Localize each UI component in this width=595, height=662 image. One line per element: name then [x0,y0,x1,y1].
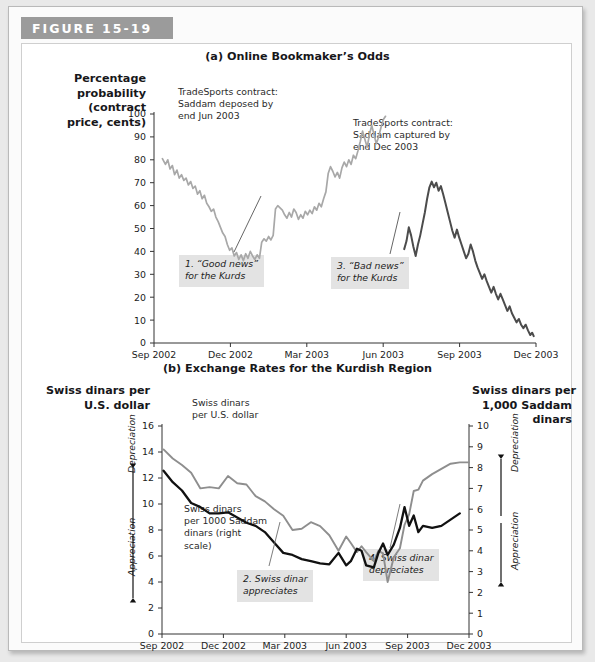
panel-a-y-tick-label: 90 [134,131,146,142]
panel-b-y-tick-label-right: 6 [477,504,483,515]
figure-number-tab: FIGURE 15-19 [21,17,173,39]
panel-b-x-tick-label: Dec 2002 [201,640,246,651]
panel-b-x-tick-label: Sep 2003 [385,640,430,651]
panel-b-x-tick-label: Dec 2003 [447,640,492,651]
panel-a-plot: 0102030405060708090100Sep 2002Dec 2002Ma… [22,44,573,344]
figure-content: (a) Online Bookmaker’s Odds Percentage p… [21,43,572,643]
panel-b-y-tick-label-left: 12 [142,472,154,483]
figure-number-label: FIGURE 15-19 [21,21,152,36]
panel-b-leader-appreciates [269,522,280,566]
panel-b-series-2 [164,471,460,568]
panel-b-y-tick-label-left: 2 [148,602,154,613]
panel-a-y-tick-label: 70 [134,177,146,188]
panel-b-y-tick-label-left: 14 [142,446,154,457]
panel-b-x-tick-label: Sep 2002 [140,640,185,651]
panel-b-y-tick-label-left: 4 [148,576,154,587]
panel-b-y-tick-label-right: 10 [477,420,489,431]
panel-b-y-tick-label-right: 0 [477,628,483,639]
panel-b-y-tick-label-right: 9 [477,441,483,452]
panel-a-y-tick-label: 100 [128,108,146,119]
panel-b-y-tick-label-right: 5 [477,524,483,535]
panel-a-series-1 [162,116,385,260]
panel-b-y-tick-label-left: 10 [142,498,154,509]
panel-a-series-2 [404,182,533,337]
panel-b-y-tick-label-right: 8 [477,462,483,473]
panel-b-y-tick-label-left: 16 [142,420,154,431]
panel-b-left-appreciation-arrow-head [130,598,136,603]
panel-a-leader-bad-news [390,212,400,254]
panel-b-y-tick-label-left: 8 [148,524,154,535]
figure-panel: FIGURE 15-19 (a) Online Bookmaker’s Odds… [8,6,583,651]
panel-b-y-tick-label-right: 4 [477,545,483,556]
panel-a-y-tick-label: 80 [134,154,146,165]
panel-a-leader-good-news [234,196,261,252]
panel-b-y-tick-label-right: 7 [477,483,483,494]
panel-a-y-tick-label: 60 [134,200,146,211]
panel-b-y-tick-label-left: 0 [148,628,154,639]
panel-b-y-tick-label-right: 2 [477,587,483,598]
panel-b-left-depreciation-arrow-head [130,463,136,468]
panel-b-right-depreciation-arrow-head [498,454,504,459]
panel-a-y-tick-label: 30 [134,269,146,280]
panel-b-plot: 0246810121416012345678910Sep 2002Dec 200… [22,344,573,644]
panel-b-y-tick-label-left: 6 [148,550,154,561]
panel-b-x-tick-label: Jun 2003 [324,640,367,651]
panel-a-y-tick-label: 20 [134,292,146,303]
panel-b-y-tick-label-right: 1 [477,608,483,619]
panel-b-right-appreciation-arrow-head [498,582,504,587]
panel-b: (b) Exchange Rates for the Kurdish Regio… [22,344,573,644]
panel-a: (a) Online Bookmaker’s Odds Percentage p… [22,44,573,344]
panel-a-y-tick-label: 10 [134,315,146,326]
panel-a-y-tick-label: 50 [134,223,146,234]
panel-a-y-tick-label: 40 [134,246,146,257]
panel-b-x-tick-label: Mar 2003 [263,640,308,651]
panel-b-y-tick-label-right: 3 [477,566,483,577]
